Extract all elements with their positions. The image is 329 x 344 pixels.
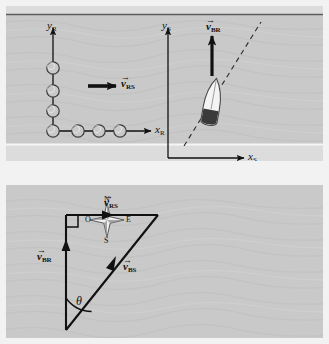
vector-triangle-graphics xyxy=(6,185,323,338)
x-s-axis-label: xS xyxy=(248,151,257,161)
angle-theta-label: θ xyxy=(76,295,82,307)
v-br-label-top: →vBR xyxy=(206,21,221,34)
v-bs-label-bottom: →vBS xyxy=(123,261,136,274)
panel-background xyxy=(6,185,323,338)
v-rs-label: →vRS xyxy=(121,78,135,91)
compass-west-label: O xyxy=(85,216,91,224)
compass-east-label: E xyxy=(126,216,131,224)
near-bank-land xyxy=(6,144,323,161)
x-r-axis-label: xR xyxy=(155,124,165,137)
physics-figure: yR xR →vRS yS xS →vBR xyxy=(0,0,329,344)
vector-triangle-panel: N E S O →vRS →vBR →vBS θ xyxy=(6,185,323,338)
compass-south-label: S xyxy=(104,237,108,245)
v-rs-label-bottom: →vRS xyxy=(104,197,118,210)
v-br-label-bottom: →vBR xyxy=(37,251,52,264)
far-bank-land xyxy=(6,6,323,14)
river-scene-panel: yR xR →vRS yS xS →vBR xyxy=(6,6,323,161)
y-r-axis-label: yR xyxy=(47,20,57,33)
y-s-axis-label: yS xyxy=(162,20,171,33)
